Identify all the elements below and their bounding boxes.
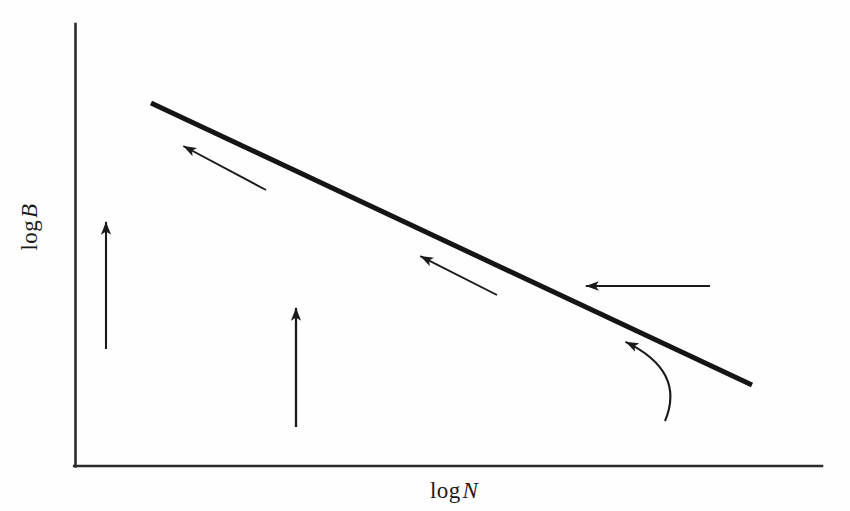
relation-line	[151, 103, 752, 385]
plot-svg	[0, 0, 850, 511]
y-axis-label-prefix: log	[17, 220, 42, 251]
arrow-curved-up-left	[625, 342, 670, 421]
annotation-arrows	[106, 146, 710, 427]
axis-lines	[74, 24, 822, 467]
x-axis-label-prefix: log	[430, 478, 461, 503]
x-axis-label: logN	[430, 478, 478, 504]
y-axis-label: logB	[17, 203, 43, 250]
figure-canvas: logN logB	[0, 0, 850, 511]
data-line-group	[151, 103, 752, 385]
y-axis-label-variable: B	[17, 203, 42, 219]
x-axis-label-variable: N	[461, 478, 479, 503]
